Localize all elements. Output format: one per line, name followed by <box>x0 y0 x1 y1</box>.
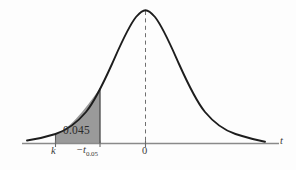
x-tick-label-k: k <box>51 146 56 157</box>
distribution-plot-canvas <box>0 0 296 170</box>
shaded-area-value-label: 0.045 <box>63 125 90 137</box>
x-tick-label-tcrit: −t0.05 <box>76 145 98 158</box>
tcrit-symbol: −t <box>76 144 86 155</box>
x-axis-label: t <box>280 136 283 147</box>
x-tick-label-zero: 0 <box>142 146 147 157</box>
t-distribution-figure: 0.045 k −t0.05 0 t <box>0 0 296 170</box>
tcrit-subscript: 0.05 <box>86 150 98 158</box>
